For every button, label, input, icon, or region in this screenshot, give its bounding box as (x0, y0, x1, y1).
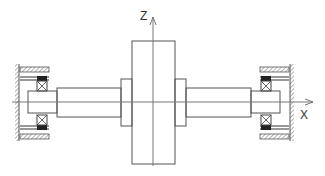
right-bearing-housing (260, 67, 289, 139)
x-axis-label: X (300, 108, 308, 122)
shaft-diagram: X Z (0, 0, 325, 176)
right-bearing (261, 81, 271, 125)
left-bearing (37, 81, 47, 125)
z-axis: Z (140, 9, 156, 166)
z-axis-label: Z (140, 9, 147, 23)
left-bearing-housing (20, 67, 49, 139)
